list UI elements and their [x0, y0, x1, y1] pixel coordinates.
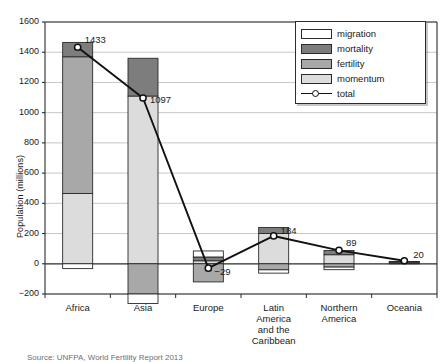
total-value-label: 1433 — [85, 34, 106, 45]
y-tick-label: 1600 — [0, 16, 39, 26]
bar-segment-mortality — [193, 257, 223, 261]
y-tick-label: 1200 — [0, 76, 39, 86]
legend-label: total — [337, 88, 355, 99]
chart-legend: migrationmortalityfertilitymomentumtotal — [295, 21, 426, 104]
total-marker — [271, 233, 277, 239]
bar-segment-migration — [63, 264, 93, 269]
bar-segment-fertility — [324, 264, 354, 267]
legend-item-momentum[interactable]: momentum — [301, 71, 421, 86]
total-value-label: 89 — [346, 237, 357, 248]
legend-line-marker-icon — [301, 89, 332, 99]
x-category-label: Europe — [176, 302, 241, 313]
legend-swatch-icon — [301, 29, 332, 39]
legend-swatch-icon — [301, 74, 332, 84]
legend-item-total[interactable]: total — [301, 86, 421, 101]
x-category-label: Asia — [110, 302, 175, 313]
y-tick-label: 0 — [0, 258, 39, 268]
legend-label: fertility — [337, 58, 364, 69]
total-value-label: 184 — [281, 225, 297, 236]
bar-segment-momentum — [128, 96, 158, 264]
total-marker — [140, 95, 146, 101]
total-value-label: 20 — [413, 249, 424, 260]
y-tick-label: 1400 — [0, 46, 39, 56]
y-tick-label: −200 — [0, 288, 39, 298]
bar-segment-momentum — [63, 194, 93, 264]
total-marker — [336, 247, 342, 253]
x-category-label: Latin America and the Caribbean — [241, 302, 306, 346]
y-tick-label: 400 — [0, 197, 39, 207]
x-category-label: Africa — [45, 302, 110, 313]
legend-item-mortality[interactable]: mortality — [301, 41, 421, 56]
bar-segment-migration — [324, 267, 354, 270]
legend-swatch-icon — [301, 44, 332, 54]
legend-item-migration[interactable]: migration — [301, 26, 421, 41]
bar-segment-fertility — [128, 264, 158, 294]
x-category-label: Northern America — [306, 302, 371, 324]
y-tick-label: 1000 — [0, 107, 39, 117]
bar-segment-momentum — [324, 255, 354, 264]
y-tick-label: 800 — [0, 137, 39, 147]
y-tick-label: 200 — [0, 228, 39, 238]
total-marker — [205, 265, 211, 271]
total-value-label: −29 — [214, 266, 230, 277]
legend-swatch-icon — [301, 59, 332, 69]
bar-segment-migration — [193, 251, 223, 257]
legend-item-fertility[interactable]: fertility — [301, 56, 421, 71]
x-category-label: Oceania — [372, 302, 437, 313]
chart-figure: Population (millions) −20002004006008001… — [0, 0, 444, 362]
source-note: Source: UNFPA, World Fertility Report 20… — [27, 353, 183, 362]
legend-label: migration — [337, 28, 376, 39]
y-tick-label: 600 — [0, 167, 39, 177]
bar-segment-fertility — [259, 264, 289, 270]
total-value-label: 1097 — [150, 94, 171, 105]
total-marker — [75, 44, 81, 50]
bar-segment-fertility — [63, 57, 93, 194]
legend-label: mortality — [337, 43, 373, 54]
total-marker — [401, 258, 407, 264]
bar-segment-migration — [259, 270, 289, 273]
legend-label: momentum — [337, 73, 385, 84]
